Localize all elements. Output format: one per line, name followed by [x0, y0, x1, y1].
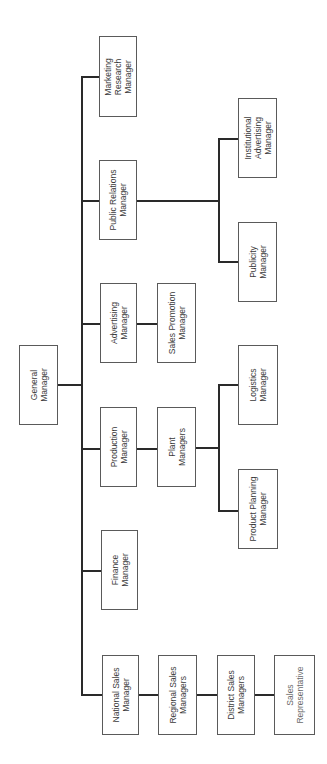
connector-plant-sub	[196, 447, 219, 449]
node-plant-managers: Plant Managers	[157, 407, 196, 487]
node-district-sales-managers: District Sales Managers	[217, 655, 255, 735]
connector-advertising	[81, 323, 100, 325]
node-sales-promotion-manager: Sales Promotion Manager	[157, 283, 196, 363]
connector-marketing-research	[81, 76, 100, 78]
connector-production	[81, 448, 100, 450]
node-label: Logistics Manager	[248, 345, 268, 425]
node-label: Finance Manager	[110, 530, 130, 610]
connector-public-relations	[81, 200, 100, 202]
node-marketing-research-manager: Marketing Research Manager	[99, 36, 137, 117]
node-public-relations-manager: Public Relations Manager	[99, 160, 137, 240]
connector-plant	[137, 448, 157, 450]
node-label: District Sales Managers	[226, 655, 246, 735]
node-finance-manager: Finance Manager	[101, 530, 138, 610]
connector-institutional	[218, 138, 239, 140]
node-label: Regional Sales Managers	[168, 655, 188, 735]
node-label: National Sales Manager	[111, 655, 131, 735]
node-label: Marketing Research Manager	[103, 37, 133, 117]
node-label: Production Manager	[109, 407, 129, 487]
node-label: Sales Promotion Manager	[167, 283, 187, 363]
node-label: Advertising Manager	[109, 283, 129, 363]
connector-general-manager	[58, 384, 82, 386]
node-sales-representative: Sales Representative	[274, 655, 315, 735]
node-label: Product Planning Manager	[248, 469, 268, 549]
node-publicity-manager: Publicity Manager	[238, 222, 277, 302]
connector-sales-rep	[255, 694, 274, 696]
connector-national-sales	[81, 694, 102, 696]
plant-sub-trunk-line	[218, 384, 220, 511]
node-product-planning-manager: Product Planning Manager	[238, 469, 278, 549]
connector-product-planning	[218, 510, 239, 512]
node-general-manager: General Manager	[19, 345, 58, 425]
connector-pr-sub	[137, 200, 219, 202]
node-label: Institutional Advertising Manager	[243, 98, 273, 178]
node-national-sales-manager: National Sales Manager	[102, 655, 139, 735]
node-label: Plant Managers	[167, 407, 187, 487]
connector-publicity	[218, 261, 239, 263]
node-label: Publicity Manager	[248, 222, 268, 302]
connector-logistics	[218, 384, 239, 386]
node-advertising-manager: Advertising Manager	[100, 283, 137, 363]
node-regional-sales-managers: Regional Sales Managers	[158, 655, 197, 735]
connector-sales-promotion	[137, 323, 157, 325]
main-trunk-line	[81, 76, 83, 695]
connector-district-sales	[197, 694, 217, 696]
node-logistics-manager: Logistics Manager	[238, 345, 278, 425]
connector-regional-sales	[139, 694, 158, 696]
node-label: Sales Representative	[285, 655, 305, 735]
node-label: Public Relations Manager	[108, 160, 128, 240]
node-label: General Manager	[29, 345, 49, 425]
node-institutional-advertising-manager: Institutional Advertising Manager	[238, 98, 277, 178]
node-production-manager: Production Manager	[100, 407, 137, 487]
pr-sub-trunk-line	[218, 138, 220, 262]
connector-finance	[81, 570, 101, 572]
